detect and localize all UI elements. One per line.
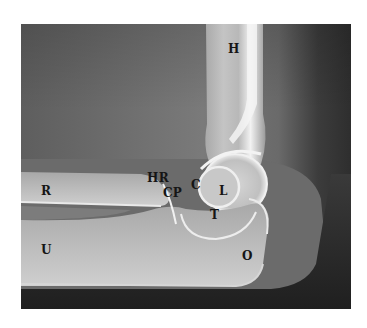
label-coronoid-process: CP xyxy=(163,187,182,199)
label-humerus: H xyxy=(228,43,240,55)
label-trochlea: T xyxy=(210,209,219,221)
label-radial-head: HR xyxy=(147,172,169,184)
label-olecranon: O xyxy=(242,250,253,262)
label-radius: R xyxy=(41,185,51,197)
xray-image: H HR CP C L T R U O xyxy=(21,24,351,309)
label-capitulum: C xyxy=(191,179,201,191)
label-ulna: U xyxy=(41,244,52,256)
label-lateral-condyle: L xyxy=(219,185,228,197)
xray-graphic xyxy=(21,24,351,309)
